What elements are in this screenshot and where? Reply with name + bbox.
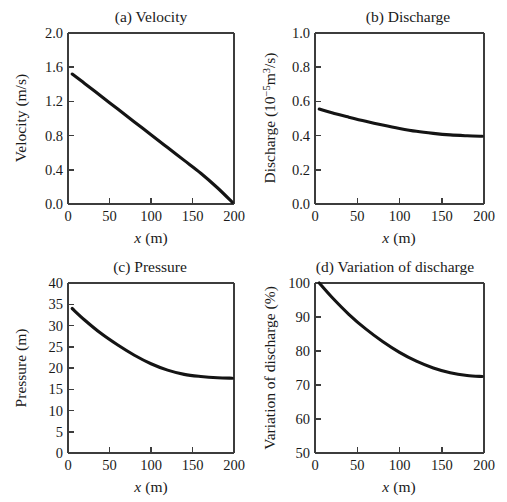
ytick-label: 0.2 xyxy=(292,162,310,178)
ytick-label: 60 xyxy=(296,411,311,427)
panel-d-data-curve xyxy=(319,283,482,377)
panel-c-title: (c) Pressure xyxy=(113,258,187,276)
xtick-label: 150 xyxy=(182,457,204,473)
ylabel-mid: m xyxy=(261,73,278,85)
x-unit: (m) xyxy=(393,229,415,247)
x-var: x xyxy=(381,229,389,246)
ytick-label: 0.0 xyxy=(292,196,310,212)
panel-b-x-ticks xyxy=(315,198,484,204)
panel-a-x-ticklabels: 0 50 100 150 200 xyxy=(64,208,245,224)
ytick-label: 0.4 xyxy=(292,128,311,144)
xtick-label: 100 xyxy=(389,457,411,473)
xtick-label: 150 xyxy=(431,457,453,473)
xtick-label: 200 xyxy=(473,457,495,473)
ytick-label: 0.8 xyxy=(292,59,310,75)
ytick-label: 0 xyxy=(56,445,63,461)
panel-a-y-ticks xyxy=(68,33,74,204)
figure-panel-grid: (a) Velocity 0.0 0.4 0.8 1.2 1.6 xyxy=(0,0,507,502)
ytick-label: 0.6 xyxy=(292,93,310,109)
panel-a-title: (a) Velocity xyxy=(115,8,188,26)
x-unit: (m) xyxy=(145,229,167,247)
xtick-label: 50 xyxy=(350,208,365,224)
xtick-label: 0 xyxy=(64,457,71,473)
ytick-label: 50 xyxy=(296,445,311,461)
xtick-label: 200 xyxy=(223,457,245,473)
xtick-label: 200 xyxy=(223,208,245,224)
ytick-label: 0.4 xyxy=(45,162,64,178)
panel-d-y-ticks xyxy=(315,283,321,453)
panel-b-x-ticklabels: 0 50 100 150 200 xyxy=(311,208,495,224)
ytick-label: 10 xyxy=(49,403,64,419)
x-var: x xyxy=(133,478,141,495)
x-unit: (m) xyxy=(145,478,167,496)
panel-d-x-ticklabels: 0 50 100 150 200 xyxy=(311,457,495,473)
ytick-label: 5 xyxy=(56,424,63,440)
panel-b-data-curve xyxy=(319,109,482,136)
xtick-label: 200 xyxy=(473,208,495,224)
ytick-label: 35 xyxy=(49,296,64,312)
panel-a-y-ticklabels: 0.0 0.4 0.8 1.2 1.6 2.0 xyxy=(45,25,64,212)
panel-d-x-ticks xyxy=(315,447,484,453)
xtick-label: 150 xyxy=(182,208,204,224)
panel-a-y-axis-title: Velocity (m/s) xyxy=(12,74,30,162)
panel-d-title: (d) Variation of discharge xyxy=(316,258,474,276)
panel-b-y-ticklabels: 0.0 0.2 0.4 0.6 0.8 1.0 xyxy=(292,25,311,212)
ylabel-exponent: −5 xyxy=(261,85,272,96)
xtick-label: 100 xyxy=(140,208,162,224)
panel-c-pressure: (c) Pressure 0 5 10 15 xyxy=(0,251,253,502)
panel-c-x-ticks xyxy=(68,447,234,453)
ytick-label: 0.8 xyxy=(45,128,63,144)
ytick-label: 15 xyxy=(49,381,64,397)
xtick-label: 0 xyxy=(64,208,71,224)
ylabel-main: Discharge (10 xyxy=(261,96,279,183)
ytick-label: 70 xyxy=(296,377,311,393)
ytick-label: 25 xyxy=(49,339,64,355)
panel-b-y-axis-title: Discharge (10−5m3/s) xyxy=(261,52,280,183)
panel-a-data-curve xyxy=(72,74,232,202)
ytick-label: 40 xyxy=(49,275,64,291)
ytick-label: 2.0 xyxy=(45,25,63,41)
xtick-label: 0 xyxy=(311,208,318,224)
ytick-label: 30 xyxy=(49,318,64,334)
panel-c-y-axis-title: Pressure (m) xyxy=(12,329,30,408)
panel-d-variation-of-discharge: (d) Variation of discharge 50 60 70 80 9… xyxy=(253,251,506,502)
panel-a-plot: (a) Velocity 0.0 0.4 0.8 1.2 1.6 xyxy=(0,0,253,251)
panel-c-plot: (c) Pressure 0 5 10 15 xyxy=(0,251,253,502)
panel-b-y-ticks xyxy=(315,33,321,204)
panel-c-x-axis-title: x(m) xyxy=(133,478,167,496)
ytick-label: 0.0 xyxy=(45,196,63,212)
ytick-label: 90 xyxy=(296,309,311,325)
ytick-label: 1.6 xyxy=(45,59,63,75)
x-unit: (m) xyxy=(393,478,415,496)
x-var: x xyxy=(133,229,141,246)
panel-d-x-axis-title: x(m) xyxy=(381,478,415,496)
ytick-label: 80 xyxy=(296,343,311,359)
panel-b-x-axis-title: x(m) xyxy=(381,229,415,247)
panel-b-plot: (b) Discharge 0.0 0.2 0.4 0.6 0.8 1.0 xyxy=(253,0,506,251)
x-var: x xyxy=(381,478,389,495)
xtick-label: 150 xyxy=(431,208,453,224)
panel-c-y-ticklabels: 0 5 10 15 20 25 30 35 40 xyxy=(49,275,64,461)
panel-a-x-ticks xyxy=(68,198,234,204)
panel-a-velocity: (a) Velocity 0.0 0.4 0.8 1.2 1.6 xyxy=(0,0,253,251)
panel-c-x-ticklabels: 0 50 100 150 200 xyxy=(64,457,245,473)
ytick-label: 1.0 xyxy=(292,25,310,41)
xtick-label: 50 xyxy=(102,457,117,473)
panel-a-x-axis-title: x(m) xyxy=(133,229,167,247)
panel-d-plot: (d) Variation of discharge 50 60 70 80 9… xyxy=(253,251,506,502)
ytick-label: 100 xyxy=(288,275,310,291)
ylabel-tail: /s) xyxy=(261,52,279,68)
ytick-label: 20 xyxy=(49,360,64,376)
xtick-label: 100 xyxy=(389,208,411,224)
panel-b-discharge: (b) Discharge 0.0 0.2 0.4 0.6 0.8 1.0 xyxy=(253,0,506,251)
panel-d-y-ticklabels: 50 60 70 80 90 100 xyxy=(288,275,310,461)
xtick-label: 50 xyxy=(350,457,365,473)
panel-d-y-axis-title: Variation of discharge (%) xyxy=(261,286,279,450)
panel-c-data-curve xyxy=(72,309,232,379)
panel-b-title: (b) Discharge xyxy=(366,8,451,26)
xtick-label: 0 xyxy=(311,457,318,473)
xtick-label: 100 xyxy=(140,457,162,473)
xtick-label: 50 xyxy=(102,208,117,224)
ytick-label: 1.2 xyxy=(45,93,63,109)
